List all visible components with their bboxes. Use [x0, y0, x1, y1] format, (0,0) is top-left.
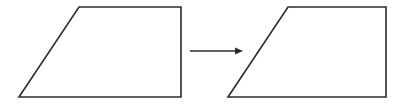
diagram-canvas	[0, 0, 406, 105]
diagram-background	[0, 0, 406, 105]
shape-transformation-diagram	[0, 0, 406, 105]
